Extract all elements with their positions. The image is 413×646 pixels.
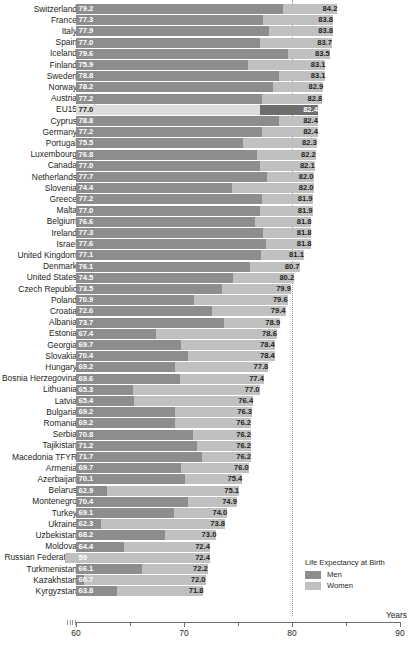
- bar-value-men: 69.2: [76, 418, 93, 428]
- chart-legend: Life Expectancy at Birth Men Women: [305, 558, 413, 592]
- x-axis-minor-tick: [238, 622, 239, 626]
- bar-value-men: 62.3: [76, 519, 93, 529]
- chart-row: United States74.580.2: [0, 273, 413, 284]
- bar-value-total: 79.4: [252, 306, 289, 316]
- x-axis-tick: [184, 622, 185, 627]
- bar-value-total: 72.4: [176, 542, 213, 552]
- bar-value-total: 79.6: [254, 295, 291, 305]
- bar-group: 79.284.2: [0, 4, 413, 14]
- chart-row: Moldova64.472.4: [0, 542, 413, 553]
- bar-segment-men: [76, 172, 267, 182]
- chart-row: Luxembourg76.882.2: [0, 150, 413, 161]
- chart-row: Cyprus78.882.4: [0, 116, 413, 127]
- chart-row: Slovakia70.478.4: [0, 351, 413, 362]
- chart-row: Armenia69.776.0: [0, 463, 413, 474]
- bar-value-men: 69.6: [76, 374, 93, 384]
- bar-segment-men: [76, 183, 232, 193]
- bar-value-total: 83.5: [296, 49, 333, 59]
- bar-value-total: 82.1: [281, 161, 318, 171]
- bar-group: 77.083.7: [0, 38, 413, 48]
- x-axis-minor-tick: [346, 622, 347, 626]
- bar-group: 77.282.8: [0, 94, 413, 104]
- axis-break-mark: [72, 620, 73, 625]
- chart-row: Turkey69.174.0: [0, 508, 413, 519]
- bar-value-men: 69.2: [76, 362, 93, 372]
- bar-value-men: 74.4: [76, 183, 93, 193]
- bar-group: 71.776.2: [0, 452, 413, 462]
- bar-group: 75.582.3: [0, 138, 413, 148]
- bar-value-men: 77.0: [76, 161, 93, 171]
- chart-row: Macedonia TFYR71.776.2: [0, 452, 413, 463]
- bar-value-total: 80.2: [260, 273, 297, 283]
- bar-value-total: 83.1: [291, 60, 328, 70]
- bar-group: 71.276.2: [0, 441, 413, 451]
- bar-value-total: 76.2: [217, 430, 254, 440]
- bar-segment-men: [76, 4, 283, 14]
- bar-group: 65.476.4: [0, 396, 413, 406]
- bar-group: 77.681.8: [0, 239, 413, 249]
- bar-value-men: 65.4: [76, 396, 93, 406]
- chart-row: Austria77.282.8: [0, 94, 413, 105]
- bar-segment-men: [76, 452, 202, 462]
- bar-value-total: 77.8: [234, 362, 271, 372]
- bar-group: 69.776.0: [0, 463, 413, 473]
- bar-segment-men: [76, 116, 279, 126]
- chart-row: Ireland77.381.8: [0, 228, 413, 239]
- bar-segment-men: [76, 284, 222, 294]
- bar-segment-men: [76, 430, 193, 440]
- bar-group: 76.180.7: [0, 262, 413, 272]
- bar-value-total: 72.4: [176, 553, 213, 563]
- chart-row: Ukraine62.373.8: [0, 519, 413, 530]
- bar-value-men: 59: [76, 553, 87, 563]
- bar-value-total: 74.0: [193, 508, 230, 518]
- bar-segment-men: [76, 150, 257, 160]
- bar-value-total: 76.2: [217, 418, 254, 428]
- bar-value-men: 76.6: [76, 217, 93, 227]
- bar-segment-men: [76, 127, 262, 137]
- bar-value-total: 82.9: [289, 82, 326, 92]
- chart-row: Spain77.083.7: [0, 38, 413, 49]
- bar-group: 76.681.8: [0, 217, 413, 227]
- bar-value-total: 74.9: [203, 497, 240, 507]
- bar-value-total: 82.4: [284, 127, 321, 137]
- bar-value-men: 77.0: [76, 105, 93, 115]
- bar-value-men: 77.7: [76, 172, 93, 182]
- bar-value-total: 76.4: [219, 396, 256, 406]
- chart-row: Serbia70.876.2: [0, 430, 413, 441]
- bar-segment-men: [76, 138, 243, 148]
- bar-value-men: 79.6: [76, 49, 93, 59]
- x-axis-tick-label: 70: [179, 628, 188, 638]
- bar-value-men: 78.8: [76, 116, 93, 126]
- bar-group: 77.383.8: [0, 15, 413, 25]
- bar-segment-men: [76, 15, 263, 25]
- chart-row: Finland75.983.1: [0, 60, 413, 71]
- bar-value-men: 75.9: [76, 60, 93, 70]
- chart-row: Belarus62.975.1: [0, 486, 413, 497]
- bar-value-total: 82.4: [284, 105, 321, 115]
- bar-value-men: 77.0: [76, 206, 93, 216]
- x-axis-tick-label: 60: [71, 628, 80, 638]
- bar-group: 70.474.9: [0, 497, 413, 507]
- bar-value-total: 72.2: [174, 564, 211, 574]
- chart-row: EU1577.082.4: [0, 105, 413, 116]
- bar-value-men: 77.6: [76, 239, 93, 249]
- bar-group: 69.277.8: [0, 362, 413, 372]
- bar-segment-men: [76, 161, 260, 171]
- bar-value-men: 77.2: [76, 127, 93, 137]
- legend-label-women: Women: [327, 581, 353, 590]
- bar-value-men: 70.8: [76, 430, 93, 440]
- bar-group: 62.373.8: [0, 519, 413, 529]
- bar-value-total: 81.8: [277, 228, 314, 238]
- bar-value-total: 82.8: [288, 94, 325, 104]
- bar-value-men: 78.8: [76, 71, 93, 81]
- bar-segment-men: [76, 26, 269, 36]
- bar-value-total: 82.0: [280, 183, 317, 193]
- bar-value-men: 71.7: [76, 452, 93, 462]
- bar-segment-men: [76, 206, 260, 216]
- bar-value-total: 81.8: [277, 217, 314, 227]
- chart-row: Portugal75.582.3: [0, 138, 413, 149]
- bar-value-total: 81.9: [279, 206, 316, 216]
- bar-value-men: 70.4: [76, 351, 93, 361]
- bar-segment-men: [76, 60, 248, 70]
- legend-item-men: Men: [305, 570, 413, 579]
